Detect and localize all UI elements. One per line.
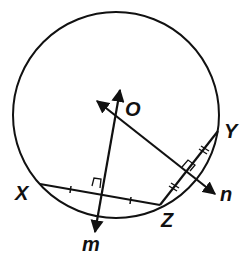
line-m	[95, 90, 120, 232]
tick-mark	[130, 197, 131, 204]
label-m: m	[82, 233, 100, 255]
right-angle-mark	[92, 178, 101, 188]
label-n: n	[220, 183, 232, 205]
label-x: X	[14, 182, 30, 204]
chord-zy	[160, 131, 218, 205]
label-y: Y	[224, 120, 239, 142]
label-z: Z	[160, 209, 174, 231]
tick-mark	[70, 186, 71, 193]
line-n	[97, 101, 215, 194]
label-o: O	[125, 98, 141, 120]
geometry-diagram: O Y X Z n m	[0, 0, 247, 257]
